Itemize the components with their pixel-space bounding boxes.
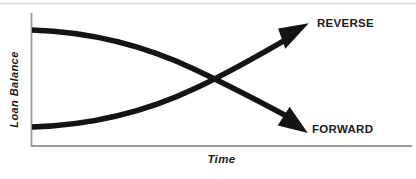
forward-series-label: FORWARD [312, 123, 373, 135]
reverse-arrowhead [278, 23, 311, 49]
forward-arrowhead [278, 105, 313, 133]
forward-curve [32, 30, 294, 120]
y-axis-label-container: Loan Balance [4, 0, 24, 179]
reverse-curve [32, 36, 292, 127]
loan-balance-chart: Loan Balance Time REVERSE FORWARD [0, 0, 416, 179]
y-axis-label: Loan Balance [4, 0, 24, 179]
x-axis-label: Time [31, 153, 412, 165]
reverse-series-label: REVERSE [317, 17, 374, 29]
